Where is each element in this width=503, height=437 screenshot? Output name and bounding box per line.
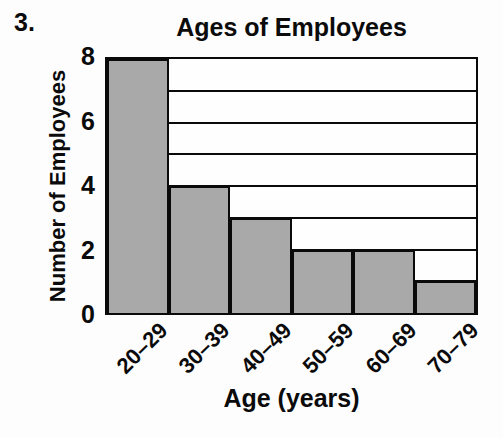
problem-number: 3. bbox=[14, 8, 35, 37]
y-tick-4: 4 bbox=[81, 173, 95, 198]
x-tick-20–29: 20–29 bbox=[113, 319, 172, 378]
y-tick-0: 0 bbox=[81, 302, 95, 327]
y-tick-6: 6 bbox=[81, 109, 95, 134]
x-tick-50–59: 50–59 bbox=[299, 319, 358, 378]
y-axis-ticks: 02468 bbox=[58, 57, 100, 315]
x-axis-ticks: 20–2930–3940–4950–5960–6970–79 bbox=[105, 317, 478, 385]
x-axis-label: Age (years) bbox=[105, 384, 478, 413]
bar-50–59 bbox=[292, 250, 354, 314]
bar-40–49 bbox=[230, 218, 292, 313]
bar-30–39 bbox=[169, 186, 231, 313]
worksheet-page: 3. Ages of Employees Number of Employees… bbox=[0, 0, 503, 437]
bar-70–79 bbox=[415, 281, 477, 313]
plot-area bbox=[105, 57, 478, 315]
x-tick-30–39: 30–39 bbox=[175, 319, 234, 378]
chart-title: Ages of Employees bbox=[105, 13, 478, 42]
x-tick-40–49: 40–49 bbox=[237, 319, 296, 378]
y-tick-8: 8 bbox=[81, 44, 95, 69]
bar-20–29 bbox=[107, 59, 169, 313]
bar-60–69 bbox=[353, 250, 415, 314]
x-tick-60–69: 60–69 bbox=[361, 319, 420, 378]
y-tick-2: 2 bbox=[81, 238, 95, 263]
x-tick-70–79: 70–79 bbox=[424, 319, 483, 378]
